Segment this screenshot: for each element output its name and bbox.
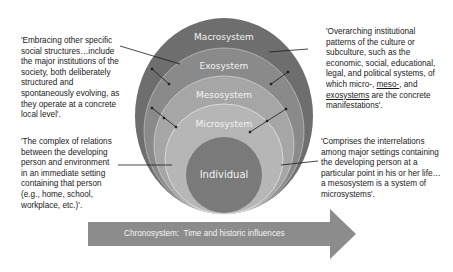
individual-label: Individual xyxy=(200,169,249,180)
chronosystem-label: Chronosystem: xyxy=(124,229,179,238)
macrosystem-quote-meso: meso- xyxy=(377,80,400,89)
mesosystem-quote: 'Comprises the interrelations among majo… xyxy=(321,137,445,201)
macrosystem-label: Macrosystem xyxy=(194,32,254,42)
exosystem-quote: 'Embracing other specific social structu… xyxy=(21,36,126,121)
exosystem-label: Exosystem xyxy=(200,61,249,71)
microsystem-label: Microsystem xyxy=(196,119,253,129)
macrosystem-quote-exo: exosystems xyxy=(326,91,369,100)
chronosystem-text: Chronosystem: Time and historic influenc… xyxy=(124,229,285,238)
microsystem-quote: 'The complex of relations between the de… xyxy=(21,137,116,211)
mesosystem-label: Mesosystem xyxy=(196,90,252,100)
macrosystem-quote-part: , and xyxy=(399,80,417,89)
macrosystem-quote: 'Overarching institutional patterns of t… xyxy=(326,27,446,112)
chronosystem-description: Time and historic influences xyxy=(183,229,284,238)
